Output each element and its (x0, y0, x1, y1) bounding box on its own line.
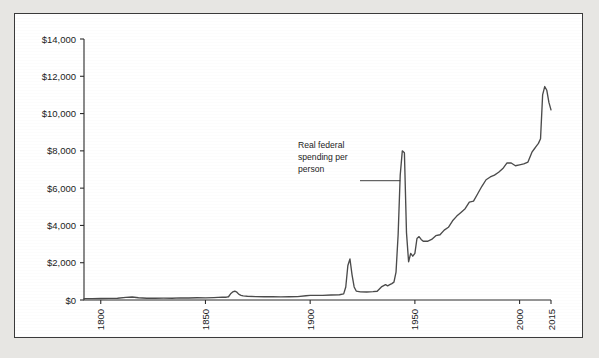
y-tick-label: $10,000 (42, 108, 76, 119)
y-tick-label: $6,000 (47, 183, 76, 194)
annotation-group: Real federal spending per person (298, 140, 400, 181)
x-tick-label: 1900 (305, 309, 316, 330)
annotation-line-2: spending per (298, 152, 348, 162)
y-tick-label: $4,000 (47, 220, 76, 231)
annotation-line-1: Real federal (298, 140, 344, 150)
x-tick-label: 1950 (409, 309, 420, 330)
chart-plot: $0$2,000$4,000$6,000$8,000$10,000$12,000… (15, 14, 584, 339)
spending-line (84, 87, 551, 299)
y-tick-label: $12,000 (42, 71, 76, 82)
figure-panel: $0$2,000$4,000$6,000$8,000$10,000$12,000… (14, 13, 583, 338)
x-tick-label: 2000 (514, 309, 525, 330)
x-tick-label: 1850 (200, 309, 211, 330)
y-tick-label: $14,000 (42, 34, 76, 45)
x-tick-label: 2015 (546, 309, 557, 330)
y-tick-label: $0 (65, 295, 76, 306)
y-tick-label: $2,000 (47, 257, 76, 268)
y-tick-label: $8,000 (47, 145, 76, 156)
x-axis: 180018501900195020002015 (95, 300, 556, 330)
annotation-line-3: person (298, 164, 324, 174)
y-axis: $0$2,000$4,000$6,000$8,000$10,000$12,000… (42, 34, 84, 306)
x-tick-label: 1800 (95, 309, 106, 330)
